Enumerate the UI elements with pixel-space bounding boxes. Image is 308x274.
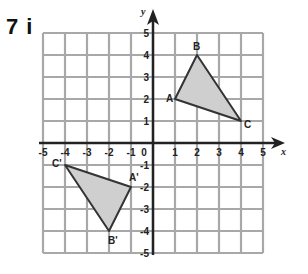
- vertex-label: A: [166, 93, 173, 104]
- y-tick-label: -4: [140, 226, 149, 237]
- y-tick-label: -5: [140, 248, 149, 259]
- y-axis-label: y: [140, 6, 146, 17]
- y-tick-label: -2: [140, 182, 149, 193]
- vertex-label: B': [108, 235, 118, 246]
- y-tick-label: 1: [143, 116, 149, 127]
- x-tick-label: 5: [260, 147, 266, 158]
- vertex-label: C': [52, 158, 62, 169]
- vertex-label: C: [244, 119, 251, 130]
- vertex-label: A': [129, 172, 139, 183]
- triangle-abc: [175, 55, 241, 121]
- triangle-a-prime-b-prime-c-prime: [65, 165, 131, 231]
- x-tick-label: 3: [216, 147, 222, 158]
- x-tick-label: -1: [127, 147, 136, 158]
- y-tick-label: -1: [140, 160, 149, 171]
- x-tick-label: 1: [172, 147, 178, 158]
- x-tick-label: -3: [83, 147, 92, 158]
- y-tick-label: 5: [143, 28, 149, 39]
- y-tick-label: 3: [143, 72, 149, 83]
- y-tick-label: 4: [143, 50, 149, 61]
- vertex-label: B: [193, 41, 200, 52]
- x-tick-label: -5: [39, 147, 48, 158]
- x-tick-label: 4: [238, 147, 244, 158]
- coordinate-grid: x y -5-4-3-2-101234554321-1-2-3-4-5 ABCA…: [0, 0, 308, 274]
- x-tick-label: -4: [61, 147, 70, 158]
- y-tick-label: 2: [143, 94, 149, 105]
- x-tick-label: 2: [194, 147, 200, 158]
- x-axis-label: x: [280, 146, 286, 157]
- axes: x y: [39, 6, 286, 255]
- y-tick-label: -3: [140, 204, 149, 215]
- x-tick-label: 0: [141, 147, 147, 158]
- x-tick-label: -2: [105, 147, 114, 158]
